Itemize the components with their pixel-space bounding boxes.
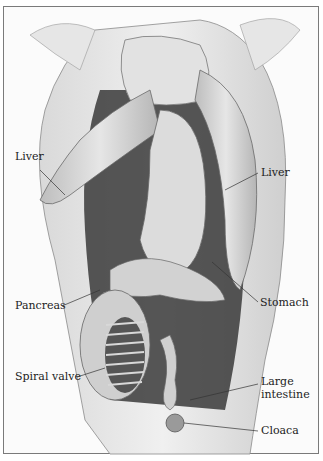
spiral-valve — [80, 290, 150, 400]
label-liver-left: Liver — [15, 151, 44, 163]
label-spiral-valve: Spiral valve — [15, 371, 81, 383]
label-cloaca: Cloaca — [261, 425, 299, 437]
label-stomach: Stomach — [260, 297, 309, 309]
label-pancreas: Pancreas — [15, 300, 66, 312]
label-large-intestine-line1: Large — [261, 376, 294, 388]
label-large-intestine-line2: intestine — [261, 389, 310, 401]
cloaca — [166, 414, 184, 432]
label-liver-right: Liver — [261, 167, 290, 179]
